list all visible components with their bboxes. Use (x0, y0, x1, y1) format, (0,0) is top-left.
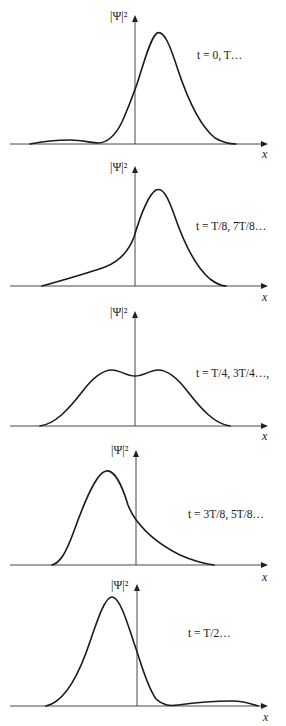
y-axis-arrow-icon (132, 166, 138, 173)
plot-t0 (0, 0, 286, 150)
y-axis-label-text: |Ψ|² (111, 578, 128, 592)
density-curve (42, 189, 226, 286)
x-axis-arrow-icon (261, 703, 268, 709)
y-axis-label: |Ψ|² (110, 9, 127, 24)
panel-t-T4: |Ψ|² t = T/4, 3T/4…, x (0, 290, 286, 440)
panel-t-3T8: |Ψ|² t = 3T/8, 5T/8… x (0, 435, 286, 580)
x-axis-arrow-icon (261, 283, 268, 289)
time-label: t = T/8, 7T/8… (196, 220, 266, 232)
y-axis-label-text: |Ψ|² (110, 305, 127, 319)
x-axis-arrow-icon (261, 562, 268, 568)
time-label: t = T/4, 3T/4…, (196, 367, 269, 379)
plot-t-T4 (0, 290, 286, 440)
y-axis-label: |Ψ|² (110, 160, 127, 175)
time-label: t = T/2… (188, 627, 231, 639)
y-axis-label-text: |Ψ|² (110, 160, 127, 174)
time-label: t = 3T/8, 5T/8… (188, 508, 264, 520)
y-axis-label: |Ψ|² (110, 305, 127, 320)
y-axis-label: |Ψ|² (111, 443, 128, 458)
panel-t-T8: |Ψ|² t = T/8, 7T/8… x (0, 145, 286, 295)
y-axis-arrow-icon (132, 15, 138, 22)
y-axis-arrow-icon (133, 450, 139, 457)
x-axis-label: x (263, 710, 268, 725)
panel-t0: |Ψ|² t = 0, T… x (0, 0, 286, 150)
density-curve (46, 597, 258, 706)
y-axis-label: |Ψ|² (111, 578, 128, 593)
panel-t-T2: |Ψ|² t = T/2… x (0, 575, 286, 726)
y-axis-label-text: |Ψ|² (110, 9, 127, 23)
plot-t-T2 (0, 575, 286, 726)
y-axis-arrow-icon (134, 584, 140, 591)
y-axis-label-text: |Ψ|² (111, 443, 128, 457)
time-label: t = 0, T… (197, 49, 242, 61)
y-axis-arrow-icon (132, 311, 138, 318)
